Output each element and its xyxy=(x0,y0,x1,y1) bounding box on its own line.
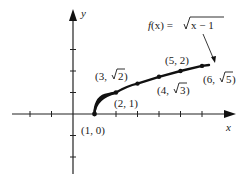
x-axis-label: x xyxy=(225,121,231,133)
svg-text:2: 2 xyxy=(118,70,124,82)
point-6-sqrt5 xyxy=(200,64,204,68)
label-1-0: (1, 0) xyxy=(81,124,105,137)
y-axis-label: y xyxy=(80,7,86,19)
annotation-arrow xyxy=(203,34,214,60)
y-axis-arrow-icon xyxy=(69,9,77,21)
x-axis-arrow-icon xyxy=(224,110,236,118)
point-5-2 xyxy=(178,69,182,73)
svg-text:): ) xyxy=(124,70,128,83)
function-curve xyxy=(95,65,210,114)
svg-text:(4,: (4, xyxy=(157,84,169,97)
label-3-sqrt2: (3, 2 ) xyxy=(95,69,128,83)
point-1-0 xyxy=(92,112,97,117)
point-2-1 xyxy=(114,90,118,94)
function-curve-smooth xyxy=(95,93,117,115)
svg-text:x − 1: x − 1 xyxy=(191,19,214,31)
svg-text:f(x) =: f(x) = xyxy=(148,19,173,32)
function-label: f(x) = x − 1 xyxy=(148,17,224,32)
annotation-arrow-head-icon xyxy=(211,56,216,63)
svg-text:): ) xyxy=(186,84,190,97)
point-4-sqrt3 xyxy=(157,75,161,79)
point-3-sqrt2 xyxy=(135,81,139,85)
label-2-1: (2, 1) xyxy=(114,97,138,110)
svg-text:(3,: (3, xyxy=(95,70,107,83)
function-graph: y x (1, 0) (2, 1) (3, 2 ) (4, 3 ) (5, 2)… xyxy=(0,0,249,181)
svg-text:(6,: (6, xyxy=(203,73,215,86)
label-5-2: (5, 2) xyxy=(165,54,189,67)
label-4-sqrt3: (4, 3 ) xyxy=(157,83,190,97)
svg-text:): ) xyxy=(232,73,236,86)
label-6-sqrt5: (6, 5 ) xyxy=(203,72,236,86)
